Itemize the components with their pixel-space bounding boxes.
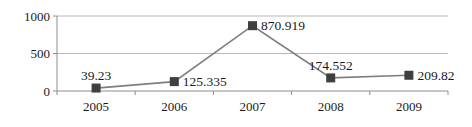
y-tick-label: 1000 bbox=[24, 9, 50, 24]
line-chart: 050010002005200620072008200939.23125.335… bbox=[0, 0, 472, 127]
data-point-marker bbox=[404, 71, 413, 80]
data-point-marker bbox=[248, 21, 257, 30]
chart-canvas: 050010002005200620072008200939.23125.335… bbox=[0, 0, 472, 127]
x-tick-label: 2006 bbox=[161, 99, 188, 114]
data-label: 39.23 bbox=[81, 68, 112, 83]
y-tick-label: 500 bbox=[31, 46, 51, 61]
data-label: 174.552 bbox=[309, 58, 353, 73]
x-tick-label: 2009 bbox=[396, 99, 422, 114]
x-tick-label: 2008 bbox=[318, 99, 344, 114]
data-label: 209.82 bbox=[417, 68, 454, 83]
data-point-marker bbox=[326, 73, 335, 82]
x-tick-label: 2005 bbox=[83, 99, 109, 114]
y-tick-label: 0 bbox=[44, 84, 51, 99]
x-tick-label: 2007 bbox=[240, 99, 267, 114]
data-label: 870.919 bbox=[261, 18, 305, 33]
data-label: 125.335 bbox=[183, 74, 227, 89]
data-point-marker bbox=[92, 84, 101, 93]
data-point-marker bbox=[170, 77, 179, 86]
